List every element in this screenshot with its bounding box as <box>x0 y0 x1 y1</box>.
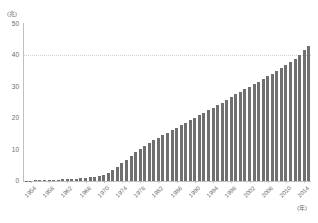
x-tickmark <box>195 181 196 183</box>
bar <box>52 180 55 181</box>
x-tickmark <box>31 181 32 183</box>
x-tick-label: 2014 <box>292 185 310 203</box>
bar <box>243 89 246 181</box>
bar <box>303 50 306 181</box>
y-tick-label: 20 <box>3 114 19 121</box>
bar <box>289 62 292 181</box>
bar <box>79 178 82 181</box>
x-tick-label: 1998 <box>219 185 237 203</box>
bar <box>221 103 224 182</box>
x-tick-label: 1962 <box>55 185 73 203</box>
bar <box>284 65 287 181</box>
bar <box>171 130 174 181</box>
x-tick-label: 1978 <box>128 185 146 203</box>
x-tick-label: 1954 <box>19 185 37 203</box>
x-tickmark <box>158 181 159 183</box>
bar <box>34 180 37 181</box>
bar <box>161 135 164 181</box>
x-tickmark <box>49 181 50 183</box>
bar <box>275 71 278 181</box>
bar <box>239 92 242 181</box>
bar <box>93 177 96 181</box>
bar-chart: (兆) (年) 01020304050 19541958196219661970… <box>0 0 318 223</box>
plot-area <box>24 24 311 181</box>
x-tickmark <box>268 181 269 183</box>
x-tickmark <box>231 181 232 183</box>
bar <box>75 179 78 182</box>
bar <box>225 100 228 181</box>
bar <box>271 74 274 181</box>
x-tickmark <box>104 181 105 183</box>
bar <box>130 156 133 181</box>
bar <box>38 180 41 181</box>
bar <box>57 180 60 181</box>
bar <box>248 87 251 181</box>
bar <box>257 82 260 181</box>
bar <box>139 149 142 181</box>
bar <box>298 55 301 181</box>
bar <box>189 120 192 181</box>
x-tick-label: 1974 <box>110 185 128 203</box>
bar <box>157 138 160 181</box>
bar <box>253 84 256 181</box>
bar <box>111 170 114 181</box>
x-axis-unit-label: (年) <box>297 203 307 212</box>
bar <box>116 167 119 181</box>
x-tick-label: 1982 <box>146 185 164 203</box>
bar <box>175 128 178 181</box>
y-tick-label: 30 <box>3 83 19 90</box>
bar <box>230 97 233 181</box>
bar <box>212 108 215 181</box>
bar <box>61 179 64 181</box>
x-tickmark <box>286 181 287 183</box>
bar <box>234 94 237 181</box>
bar <box>294 59 297 181</box>
x-tickmark <box>86 181 87 183</box>
x-tick-label: 1970 <box>92 185 110 203</box>
x-tickmark <box>140 181 141 183</box>
y-tick-label: 0 <box>3 177 19 184</box>
x-tick-label: 1986 <box>164 185 182 203</box>
x-tickmark <box>177 181 178 183</box>
x-tick-label: 1990 <box>183 185 201 203</box>
x-tickmark <box>250 181 251 183</box>
bar <box>266 76 269 181</box>
bar <box>180 125 183 181</box>
bar <box>43 180 46 181</box>
x-tick-label: 1994 <box>201 185 219 203</box>
bar <box>307 46 310 181</box>
x-tick-label: 1958 <box>37 185 55 203</box>
bar <box>198 115 201 181</box>
x-tickmark <box>67 181 68 183</box>
bar <box>148 143 151 181</box>
bar <box>89 177 92 181</box>
y-tick-label: 10 <box>3 146 19 153</box>
bar <box>143 146 146 181</box>
bar <box>166 133 169 181</box>
x-tickmark <box>122 181 123 183</box>
y-axis-unit-label: (兆) <box>7 9 17 18</box>
bar <box>216 105 219 181</box>
bar <box>125 160 128 181</box>
x-tickmark <box>304 181 305 183</box>
bar <box>107 173 110 181</box>
bar <box>262 79 265 181</box>
bar <box>98 176 101 181</box>
bar <box>193 118 196 181</box>
x-tick-label: 1966 <box>73 185 91 203</box>
bar <box>120 163 123 181</box>
bar <box>202 113 205 181</box>
x-tick-label: 2002 <box>237 185 255 203</box>
bar <box>207 110 210 181</box>
bar <box>70 179 73 181</box>
bar <box>134 152 137 181</box>
bar <box>152 140 155 181</box>
y-tick-label: 50 <box>3 20 19 27</box>
x-tick-label: 2010 <box>274 185 292 203</box>
bar <box>280 68 283 181</box>
x-tickmark <box>213 181 214 183</box>
bar <box>184 123 187 181</box>
x-tick-label: 2006 <box>256 185 274 203</box>
y-tick-label: 40 <box>3 51 19 58</box>
